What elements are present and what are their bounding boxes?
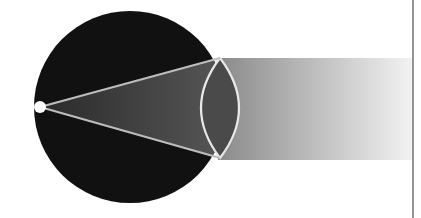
eye-optics-diagram xyxy=(0,0,421,218)
focal-point xyxy=(34,101,46,113)
light-beam xyxy=(218,58,412,160)
